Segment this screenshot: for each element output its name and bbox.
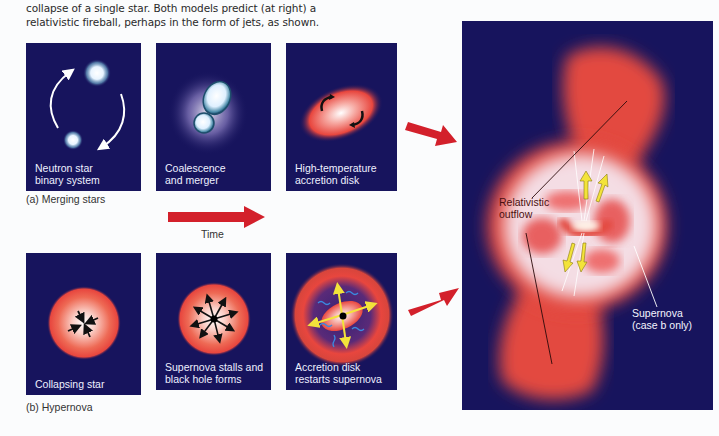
arrow-a-to-main-icon <box>405 110 460 150</box>
panel-black-hole-forms: Supernova stalls and black hole forms <box>156 253 271 390</box>
panel-coalescence-merger: Coalescence and merger <box>156 43 271 191</box>
caption-line-2: relativistic fireball, perhaps in the fo… <box>26 15 446 29</box>
panel-label: High-temperature accretion disk <box>295 162 393 186</box>
panel-accretion-disk: High-temperature accretion disk <box>286 43 397 191</box>
time-label: Time <box>201 228 224 240</box>
supernova-label: Supernova (case b only) <box>632 307 692 331</box>
arrow-b-to-main-icon <box>405 280 460 320</box>
panel-collapsing-star: Collapsing star <box>26 253 141 395</box>
panel-neutron-star-binary: Neutron star binary system <box>26 43 141 191</box>
collapsing-star-icon <box>26 253 141 395</box>
row-b-label: (b) Hypernova <box>26 401 93 413</box>
caption-line-1: collapse of a single star. Both models p… <box>26 1 446 15</box>
panel-label: Supernova stalls and black hole forms <box>165 361 267 385</box>
time-arrow-icon <box>166 205 268 229</box>
row-a-label: (a) Merging stars <box>26 193 105 205</box>
relativistic-fireball-panel: Relativistic outflow Supernova (case b o… <box>462 21 713 410</box>
figure-caption: collapse of a single star. Both models p… <box>26 1 446 29</box>
panel-accretion-disk-supernova: Accretion disk restarts supernova <box>286 253 397 390</box>
relativistic-outflow-label: Relativistic outflow <box>499 196 549 220</box>
panel-label: Accretion disk restarts supernova <box>295 361 393 385</box>
panel-label: Collapsing star <box>35 378 137 390</box>
panel-label: Coalescence and merger <box>165 162 267 186</box>
panel-label: Neutron star binary system <box>35 162 137 186</box>
